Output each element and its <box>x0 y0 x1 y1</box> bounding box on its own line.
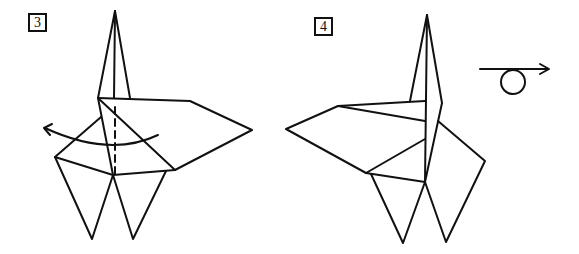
origami-diagram <box>0 0 579 254</box>
legs <box>371 174 425 243</box>
left-flap <box>286 101 425 182</box>
step-3-figure <box>44 11 252 239</box>
right-flap <box>98 98 252 175</box>
step-4-figure <box>286 15 485 243</box>
fold-arrow-icon <box>44 124 158 145</box>
spire <box>410 15 442 182</box>
spire <box>98 11 130 98</box>
legs <box>55 157 166 239</box>
turn-over-icon <box>480 64 549 94</box>
